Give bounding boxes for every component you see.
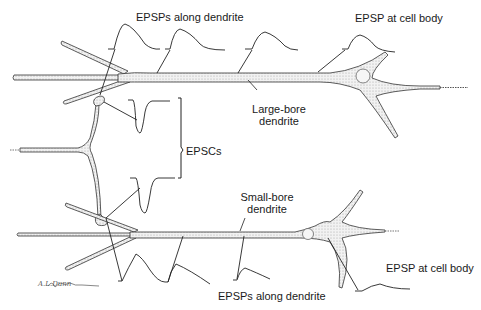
epsp-trace-top-1 bbox=[108, 24, 160, 49]
small-bore-pointer bbox=[240, 218, 245, 231]
small-bore-line1: Small-bore bbox=[232, 191, 302, 203]
bottom-left-dendrite bbox=[17, 233, 132, 236]
label-bottom-epsp-at-cell-body: EPSP at cell body bbox=[386, 262, 474, 274]
top-neuron bbox=[13, 41, 440, 138]
epsp-trace-bottom-1 bbox=[118, 254, 210, 284]
epsp-trace-top-3 bbox=[245, 32, 298, 50]
epsp-trace-top-2 bbox=[165, 29, 225, 50]
bottom-soma-nucleus bbox=[303, 229, 314, 240]
label-large-bore-dendrite: Large-bore dendrite bbox=[244, 103, 314, 127]
top-upper-branch bbox=[61, 41, 128, 74]
epsc-trace-1 bbox=[128, 100, 170, 133]
bottom-upper-branch bbox=[65, 203, 138, 232]
large-bore-line1: Large-bore bbox=[244, 103, 314, 115]
top-soma-nucleus bbox=[356, 69, 370, 83]
label-epscs: EPSCs bbox=[186, 145, 221, 157]
large-bore-line2: dendrite bbox=[244, 115, 314, 127]
presynaptic-axon bbox=[20, 96, 108, 226]
epsp-trace-top-soma bbox=[342, 35, 395, 52]
signature-text: A.L.Dunn bbox=[38, 280, 71, 288]
label-top-epsps-along-dendrite: EPSPs along dendrite bbox=[136, 11, 244, 23]
label-bottom-epsps-along-dendrite: EPSPs along dendrite bbox=[218, 290, 326, 302]
top-bouton bbox=[94, 96, 105, 106]
epsc-traces bbox=[104, 98, 183, 218]
epsc-bracket bbox=[178, 98, 183, 178]
bottom-lower-branch bbox=[65, 236, 136, 270]
epsp-trace-bottom-soma bbox=[355, 284, 410, 291]
bottom-neuron bbox=[17, 190, 385, 288]
label-top-epsp-at-cell-body: EPSP at cell body bbox=[355, 12, 443, 24]
label-small-bore-dendrite: Small-bore dendrite bbox=[232, 191, 302, 215]
epsc-trace-2 bbox=[130, 178, 175, 213]
small-bore-line2: dendrite bbox=[232, 203, 302, 215]
